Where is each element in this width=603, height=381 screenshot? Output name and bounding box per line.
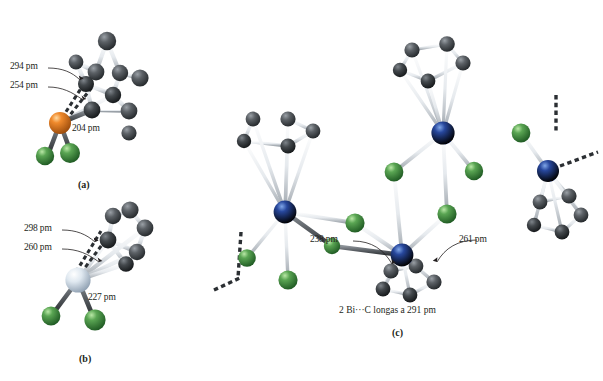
panel-c-bi-atom-right <box>537 160 559 182</box>
panel-letter-b: (b) <box>79 354 91 364</box>
panel-c-note: 2 Bi···C longas a 291 pm <box>339 306 436 316</box>
label-c-261pm: 261 pm <box>459 235 487 245</box>
label-a-254pm: 254 pm <box>10 81 38 91</box>
panel-c-bi-atom-top <box>431 121 454 144</box>
panel-c-bi-atom-left <box>274 201 297 224</box>
label-a-294pm: 294 pm <box>10 62 38 72</box>
panel-b-structure <box>42 201 154 330</box>
label-b-227pm: 227 pm <box>88 293 116 303</box>
panel-letter-c: (c) <box>392 328 403 338</box>
panel-c-arrowhead-261 <box>433 257 438 262</box>
molecular-structure-figure <box>0 0 603 381</box>
label-b-260pm: 260 pm <box>24 243 52 253</box>
label-c-238pm: 238 pm <box>310 235 338 245</box>
panel-a-structure <box>36 32 149 165</box>
panel-a-leaders <box>48 68 83 100</box>
panel-a-center-atom <box>49 112 71 134</box>
panel-b-center-atom <box>65 267 90 292</box>
panel-c-bonds-cp-top <box>400 44 463 133</box>
panel-letter-a: (a) <box>78 180 90 190</box>
panel-c-structure <box>214 36 598 302</box>
label-a-204pm: 204 pm <box>72 124 100 134</box>
panel-c-bonds-left-dark <box>285 212 402 255</box>
label-b-298pm: 298 pm <box>24 224 52 234</box>
